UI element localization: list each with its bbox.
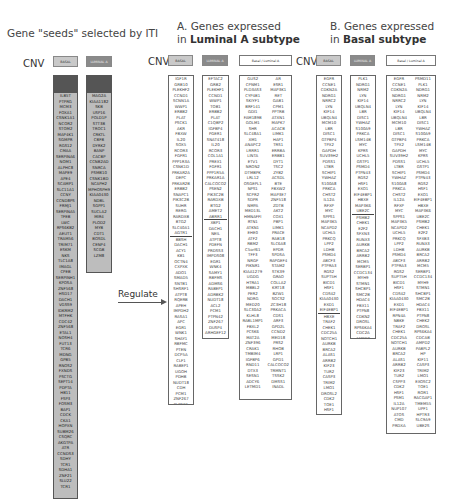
gene-item: LZM8 xyxy=(87,253,111,259)
seed-column-basal: ILB5TPTPRGMCM3FOXA1CSNK1A1NCOR2STOM2MAP4… xyxy=(53,75,78,499)
gene-item: AMPD2 xyxy=(351,336,375,340)
panel-a-title-line2: in Luminal A subtype xyxy=(177,33,300,46)
panel-b-title-line2: in Basal subtype xyxy=(330,33,434,46)
gene-item: LETMD1 xyxy=(240,384,266,390)
gene-list-top: EGFRCCNE1CDKN2ANDRG1NRRC2LYNKIF14UBQLN4M… xyxy=(317,76,341,313)
gene-list-right: ARESR1MAP3K1RETGAB1CPM1PPTRBATXN1MAPK7AC… xyxy=(266,76,292,390)
cnv-label-b: CNV xyxy=(296,56,317,67)
gene-item: KIAA0430 xyxy=(87,192,111,198)
gene-item: PLEKHF2 xyxy=(169,87,193,93)
tag-basal-seeds: BASAL xyxy=(53,56,78,67)
panel-b-both-column: EGFRCCNE1CDKN2ANDRG1NRRC2LYNKIF14UBQLN4M… xyxy=(386,75,436,434)
gene-item: PRDXA xyxy=(387,423,411,429)
seed-gene-list: MAG2AKIAA1182SKBUSP16POLD1PSTT3BTROC1CRK… xyxy=(87,93,111,258)
gene-item: UBE2S xyxy=(411,423,435,429)
gene-item: CSNK1A1 xyxy=(54,115,77,121)
gene-list-top: PLK1NDRG1NRM2LYNKIF14UBQLN4LBRDISC1YWHAZ… xyxy=(351,76,375,214)
panel-a-basal-column: IGF1RGRB10PLEKHF2CCND1SCNN1AWWP1ERBB2PLA… xyxy=(168,75,194,405)
panel-a-title-line1: A. Genes expressed xyxy=(177,20,300,33)
gene-item: SUV39H2 xyxy=(317,153,341,159)
tag-basal-a: BASAL xyxy=(168,55,193,66)
tag-luminal-b: LUMINAL A xyxy=(350,55,375,66)
gene-list-left: EGFRCCNE1CDKN2ANDRG1NRRC2LYNKIF14UBQLN4M… xyxy=(387,76,411,428)
gene-list-bottom: XBP1DACH1NEILATPT8PDEFNPRDSS3IMPDS08EGR1… xyxy=(203,220,228,336)
gene-item: RPS6KA4 xyxy=(411,329,435,335)
gene-item: KIAA0430 xyxy=(317,296,341,302)
gene-list-top: IGF1RGRB10PLEKHF2CCND1SCNN1AWWP1ERBB2PLA… xyxy=(169,76,193,236)
gene-item: CCNB2AD xyxy=(87,159,111,165)
regulate-label: Regulate xyxy=(118,289,158,299)
gene-item: CALCOCO2 xyxy=(266,362,292,368)
panel-a-subtype: Luminal A subtype xyxy=(190,33,300,45)
seed-column-luminal: MAG2AKIAA1182SKBUSP16POLD1PSTT3BTROC1CRK… xyxy=(86,75,112,273)
gene-item: PLD3AS3 xyxy=(240,87,266,93)
gene-item: EIF4EBP1 xyxy=(387,307,411,313)
tag-both-b: Basal / Luminal A xyxy=(386,55,436,66)
seed-header-block xyxy=(87,76,111,93)
gene-item: INADL xyxy=(266,384,292,390)
gene-item: RABL1MP1 xyxy=(240,318,266,324)
gene-item: RACGAP1 xyxy=(411,395,435,401)
cnv-label-a: CNV xyxy=(148,56,169,67)
regulate-arrow-head-icon xyxy=(161,299,167,305)
regulate-arrow-line xyxy=(118,302,162,303)
tag-luminal-a: LUMINAL A xyxy=(202,55,228,66)
gene-list-bottom: HBXETRAF2CHEK1CDC25ANOTCH1AURKBBRCA2ALAS… xyxy=(317,314,341,416)
tag-both-a: Basal / Luminal A xyxy=(239,55,292,66)
gene-item: ROR1 xyxy=(317,413,341,416)
seeds-title: Gene "seeds" selected by ITI xyxy=(7,27,158,40)
panel-a-both-column: GUS2CPNM1PLD3AS3CYP4B1SKIYF1BRF141GDI1FA… xyxy=(239,75,292,400)
gene-list-bottom: BBSHDACH1ACY1KB1OCTN4CXPXKADO1SMAD5SNTB1… xyxy=(169,237,193,406)
seed-gene-list: ILB5TPTPRGMCM3FOXA1CSNK1A1NCOR2STOM2MAP4… xyxy=(54,93,77,489)
panel-b-subtype: Basal subtype xyxy=(343,33,426,45)
gene-item: CCDC134 xyxy=(411,274,435,280)
gene-item: PRKAR1A xyxy=(203,175,228,181)
gene-item: EIF4EBP1 xyxy=(411,197,435,203)
gene-item: SCAMP1 xyxy=(54,181,77,187)
panel-b-basal-column: EGFRCCNE1CDKN2ANDRG1NRRC2LYNKIF14UBQLN4M… xyxy=(316,75,342,415)
gene-list-bottom: PSMB2CHEK1E2F2SFXN3RUNX3AURKBBRCA2ARRB2M… xyxy=(351,215,375,340)
panel-a-title: A. Genes expressed in Luminal A subtype xyxy=(177,20,300,46)
gene-item: EIF4EBP1 xyxy=(317,307,341,313)
gene-list-left: GUS2CPNM1PLD3AS3CYP4B1SKIYF1BRF141GDI1FA… xyxy=(240,76,266,390)
tag-luminal-seeds: LUMINAL A xyxy=(86,56,112,67)
cnv-label-seeds: CNV xyxy=(23,58,44,69)
panel-b-luminal-column: PLK1NDRG1NRM2LYNKIF14UBQLN4LBRDISC1YWHAZ… xyxy=(350,75,376,339)
gene-item: TCR1 xyxy=(54,484,77,490)
gene-item: RPS6KB2 xyxy=(54,225,77,231)
tag-basal-b: BASAL xyxy=(316,55,341,66)
gene-item: PLPNE1 xyxy=(169,402,193,406)
panel-b-title: B. Genes expressed in Basal subtype xyxy=(330,20,434,46)
gene-item: SUV39H2 xyxy=(387,153,411,159)
panel-a-luminal-column: EFTAC2GRB2PLEKHF1CCND1WWP1TOB1ERBB2PLATC… xyxy=(202,75,229,339)
gene-item: KIAA0430 xyxy=(387,296,411,302)
panel-b-title-line1: B. Genes expressed xyxy=(330,20,434,33)
gene-list-right: PSMD11PLK1NDRG1NRM2LYNKIF14UBQLN4LBRDISC… xyxy=(411,76,435,428)
seed-header-block xyxy=(54,76,77,93)
gene-item: ARHGEF12 xyxy=(203,330,228,336)
gene-list-top: EFTAC2GRB2PLEKHF1CCND1WWP1TOB1ERBB2PLATC… xyxy=(203,76,228,219)
